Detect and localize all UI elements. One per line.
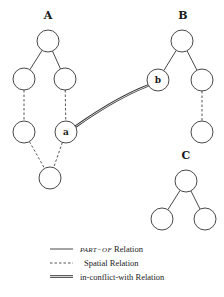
node-c-r xyxy=(194,208,216,230)
node-a-ll xyxy=(13,121,35,143)
spatial-edge xyxy=(54,142,63,167)
legend: PART−OF Relation Spatial Relation in-con… xyxy=(50,244,165,282)
node-b-rr xyxy=(191,121,213,143)
legend-part-of-label: Relation xyxy=(112,244,144,254)
conflict-edge-outer xyxy=(76,85,149,126)
tree-label-a: A xyxy=(43,9,53,22)
node-c-l xyxy=(151,208,173,230)
legend-conflict-label: in-conflict-with Relation xyxy=(80,272,165,282)
part-of-edge xyxy=(52,51,60,69)
node-b-r xyxy=(191,69,213,91)
legend-item-conflict: in-conflict-with Relation xyxy=(50,272,165,282)
svg-text:PART−OF Relation: PART−OF Relation xyxy=(79,244,144,254)
node-c-root xyxy=(175,170,197,192)
node-a-r xyxy=(54,68,76,90)
legend-item-spatial: Spatial Relation xyxy=(50,258,139,268)
relation-diagram: ab A B C PART−OF Relation Spatial Relati… xyxy=(0,0,224,297)
node-a-root xyxy=(37,30,59,52)
node-a-l xyxy=(13,68,35,90)
part-of-edge xyxy=(191,191,200,209)
part-of-edge xyxy=(164,50,176,70)
spatial-edge xyxy=(29,142,44,169)
part-of-edge xyxy=(187,51,197,70)
node-label-b: b xyxy=(155,75,161,85)
node-b-root xyxy=(171,30,193,52)
legend-spatial-label: Spatial Relation xyxy=(84,258,139,268)
node-label-a: a xyxy=(63,127,69,137)
tree-label-b: B xyxy=(178,9,187,22)
legend-part-of-italic: PART−OF xyxy=(79,246,112,254)
conflict-edges xyxy=(76,85,149,126)
nodes: ab xyxy=(13,30,216,230)
legend-item-part-of: PART−OF Relation xyxy=(50,244,144,254)
part-of-edge xyxy=(168,190,180,209)
part-of-edge xyxy=(30,50,42,69)
tree-label-c: C xyxy=(182,149,191,162)
spatial-edge xyxy=(65,90,66,121)
node-a-bottom xyxy=(39,167,61,189)
